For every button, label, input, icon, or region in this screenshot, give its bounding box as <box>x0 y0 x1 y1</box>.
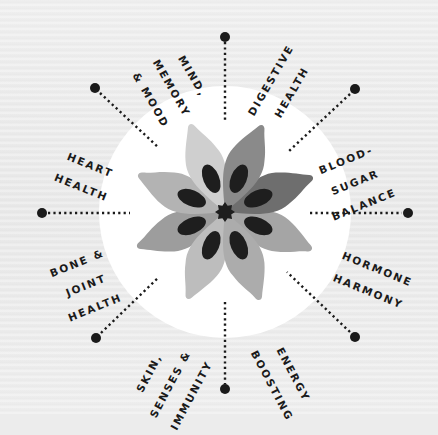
star-burst-icon <box>215 202 235 222</box>
dot-icon <box>91 333 101 343</box>
flower-icon <box>130 117 319 306</box>
dot-icon <box>350 84 360 94</box>
dot-icon <box>350 332 360 342</box>
dot-icon <box>220 384 230 394</box>
dot-icon <box>403 208 413 218</box>
dot-icon <box>220 32 230 42</box>
dot-icon <box>37 208 47 218</box>
dot-icon <box>90 83 100 93</box>
